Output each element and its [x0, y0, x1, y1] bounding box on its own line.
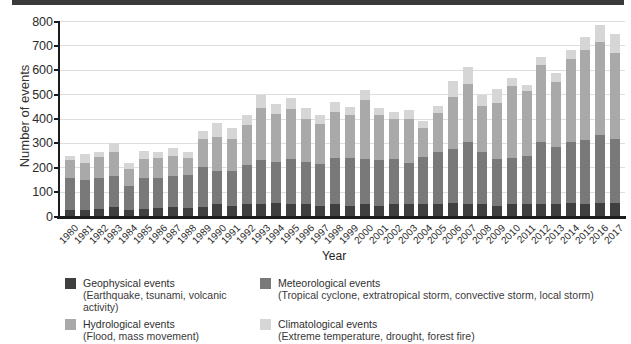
bar-segment-hydrological — [301, 119, 311, 162]
bar-segment-climatological — [198, 131, 208, 138]
bar-segment-climatological — [522, 85, 532, 91]
bar-segment-meteorological — [153, 178, 163, 208]
bar-segment-climatological — [580, 37, 590, 49]
legend-item-geophysical: Geophysical events(Earthquake, tsunami, … — [65, 277, 260, 313]
bar-segment-meteorological — [477, 152, 487, 204]
legend-swatch — [260, 319, 271, 330]
bar-segment-climatological — [492, 89, 502, 104]
bar-segment-geophysical — [330, 204, 340, 216]
bar-segment-climatological — [242, 115, 252, 125]
bar-segment-hydrological — [404, 119, 414, 163]
y-tick-mark — [54, 94, 58, 96]
bar-segment-meteorological — [109, 176, 119, 206]
bar-segment-hydrological — [360, 100, 370, 160]
bar-segment-hydrological — [183, 158, 193, 175]
decor-top-bar — [12, 0, 624, 5]
bar-segment-geophysical — [242, 204, 252, 216]
legend-swatch — [260, 278, 271, 289]
bar-segment-meteorological — [183, 175, 193, 208]
bar-segment-hydrological — [345, 115, 355, 158]
bar-segment-meteorological — [345, 158, 355, 206]
bar-segment-climatological — [183, 152, 193, 158]
bar-segment-meteorological — [212, 171, 222, 204]
legend-swatch — [65, 319, 76, 330]
y-tick-label: 700 — [24, 40, 53, 52]
y-tick-label: 200 — [24, 162, 53, 174]
y-tick-mark — [54, 142, 58, 144]
bar-segment-climatological — [389, 112, 399, 119]
bar-segment-geophysical — [566, 203, 576, 216]
bar-segment-climatological — [536, 57, 546, 66]
bar-segment-meteorological — [566, 142, 576, 203]
bar-segment-climatological — [566, 50, 576, 60]
bar-segment-climatological — [330, 102, 340, 112]
bar-segment-meteorological — [330, 158, 340, 204]
bar-segment-climatological — [65, 156, 75, 161]
y-tick-label: 400 — [24, 113, 53, 125]
bar-segment-hydrological — [522, 91, 532, 156]
legend-label: Geophysical events — [83, 277, 260, 289]
y-tick-label: 0 — [24, 211, 53, 223]
bar-segment-meteorological — [448, 149, 458, 203]
bar-segment-climatological — [227, 128, 237, 139]
bar-segment-hydrological — [595, 42, 605, 135]
bar-segment-meteorological — [463, 142, 473, 204]
x-axis-title: Year — [299, 249, 369, 263]
bar-segment-geophysical — [433, 204, 443, 216]
legend-label: Hydrological events — [83, 318, 199, 330]
legend-text: Meteorological events(Tropical cyclone, … — [278, 277, 594, 301]
y-axis-line — [58, 21, 60, 219]
y-tick-mark — [54, 45, 58, 47]
bar-segment-climatological — [212, 123, 222, 138]
bar-segment-meteorological — [124, 186, 134, 210]
bar-segment-climatological — [360, 90, 370, 100]
bar-segment-hydrological — [80, 163, 90, 180]
figure: Number of events 19801981198219831984198… — [0, 0, 631, 344]
legend-label: Climatological events — [278, 318, 475, 330]
legend-text: Hydrological events(Flood, mass movement… — [83, 318, 199, 342]
bar-segment-geophysical — [463, 204, 473, 216]
bar-segment-geophysical — [389, 204, 399, 216]
bar-segment-hydrological — [374, 115, 384, 160]
bar-segment-climatological — [153, 152, 163, 158]
bar-segment-meteorological — [389, 159, 399, 204]
bar-segment-climatological — [345, 107, 355, 116]
bar-segment-climatological — [124, 163, 134, 169]
bar-segment-hydrological — [507, 86, 517, 158]
bar-segment-climatological — [80, 154, 90, 163]
y-tick-mark — [54, 216, 58, 218]
bar-segment-geophysical — [404, 204, 414, 216]
bar-segment-meteorological — [418, 157, 428, 205]
bar-segment-climatological — [448, 81, 458, 97]
bar-segment-hydrological — [536, 65, 546, 142]
bar-segment-geophysical — [536, 204, 546, 216]
bar-segment-hydrological — [448, 97, 458, 149]
bar-segment-climatological — [374, 108, 384, 115]
bar-segment-meteorological — [256, 160, 266, 204]
bar-segment-geophysical — [315, 206, 325, 217]
bar-segment-meteorological — [522, 156, 532, 205]
legend-text: Geophysical events(Earthquake, tsunami, … — [83, 277, 260, 313]
bar-segment-climatological — [463, 67, 473, 84]
bar-segment-meteorological — [168, 176, 178, 206]
bar-segment-geophysical — [256, 204, 266, 216]
bar-segment-climatological — [433, 106, 443, 113]
y-tick-label: 600 — [24, 64, 53, 76]
bar-segment-hydrological — [315, 124, 325, 164]
y-tick-label: 300 — [24, 137, 53, 149]
bar-segment-meteorological — [610, 139, 620, 204]
bar-segment-meteorological — [227, 171, 237, 205]
bar-segment-hydrological — [610, 53, 620, 138]
bar-segment-geophysical — [345, 206, 355, 217]
bar-segment-hydrological — [551, 82, 561, 147]
bar-segment-geophysical — [507, 204, 517, 216]
gridline — [59, 21, 625, 22]
bar-segment-climatological — [315, 115, 325, 124]
bar-segment-geophysical — [522, 204, 532, 216]
bar-segment-hydrological — [433, 113, 443, 152]
legend-text: Climatological events(Extreme temperatur… — [278, 318, 475, 342]
legend-description: (Earthquake, tsunami, volcanic activity) — [83, 289, 260, 313]
bar-segment-hydrological — [580, 50, 590, 140]
bar-segment-hydrological — [227, 139, 237, 172]
bar-segment-meteorological — [286, 159, 296, 204]
